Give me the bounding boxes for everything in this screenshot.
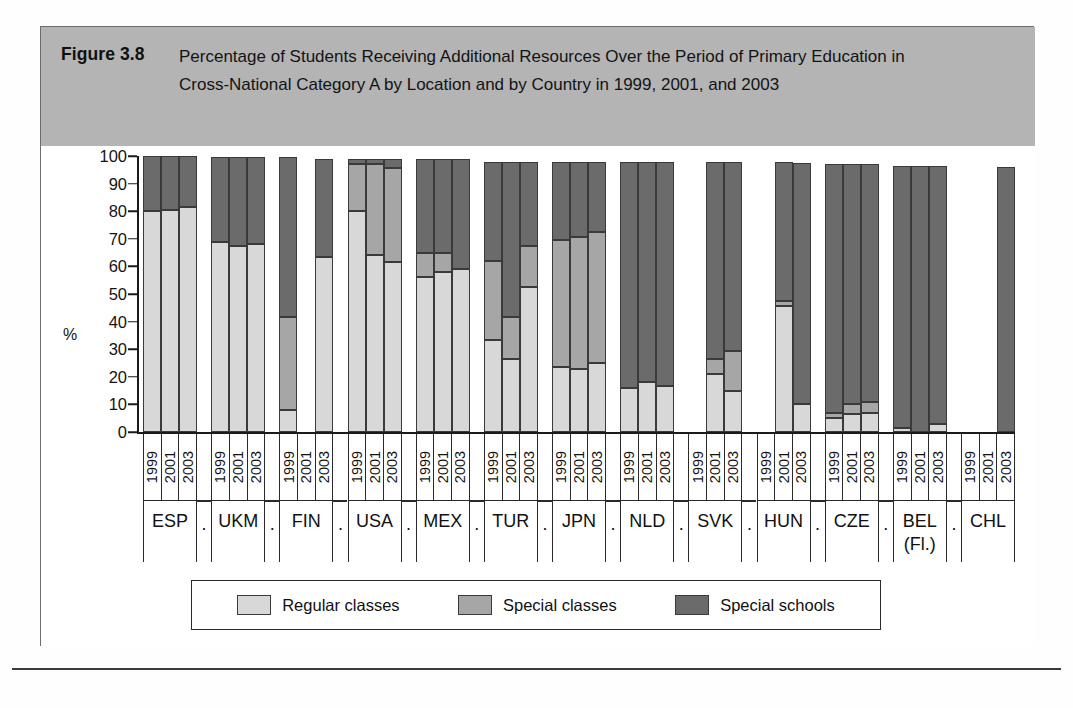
bar-belfl-2003[interactable] (929, 156, 947, 432)
year-label: 2003 (998, 451, 1014, 483)
bar-svk-2003[interactable] (724, 156, 742, 432)
figure-title-band: Figure 3.8 Percentage of Students Receiv… (41, 27, 1035, 146)
bar-usa-2003[interactable] (384, 156, 402, 432)
bar-segment-special-schools (825, 164, 843, 412)
bar-jpn-2003[interactable] (588, 156, 606, 432)
year-label: 1999 (553, 451, 569, 483)
bar-esp-2001[interactable] (161, 156, 179, 432)
bar-fin-1999[interactable] (279, 156, 297, 432)
country-label-row: HUN (758, 500, 810, 562)
year-label: 2001 (912, 451, 928, 483)
year-label: 2003 (452, 451, 468, 483)
year-cell-2003: 2003 (520, 434, 537, 500)
bar-ukm-1999[interactable] (211, 156, 229, 432)
bar-segment-special-classes (861, 402, 879, 413)
bar-hun-2003[interactable] (793, 156, 811, 432)
bar-belfl-1999[interactable] (893, 156, 911, 432)
country-label: CHL (970, 510, 1006, 533)
year-cell-2001: 2001 (366, 434, 384, 500)
bar-segment-regular (570, 369, 588, 432)
bar-cze-1999[interactable] (825, 156, 843, 432)
category-spacer: . (947, 434, 961, 562)
y-tick-mark-0 (128, 431, 137, 433)
year-cell-1999: 1999 (962, 434, 980, 500)
bar-fin-2003[interactable] (315, 156, 333, 432)
bar-nld-2001[interactable] (638, 156, 656, 432)
category-column-esp: 199920012003ESP (143, 434, 197, 562)
bar-segment-special-classes (520, 246, 538, 287)
country-label: JPN (562, 510, 596, 533)
bar-nld-2003[interactable] (656, 156, 674, 432)
bar-segment-special-schools (520, 162, 538, 246)
country-label: TUR (492, 510, 529, 533)
spacer-dot-label: . (815, 514, 820, 535)
y-tick-label-50: 50 (81, 285, 127, 304)
bar-tur-2001[interactable] (502, 156, 520, 432)
category-column-fin: 199920012003FIN (279, 434, 333, 562)
bar-segment-regular (452, 269, 470, 432)
y-tick-label-100: 100 (81, 147, 127, 166)
year-label: 1999 (962, 451, 978, 483)
bar-segment-special-schools (588, 162, 606, 232)
bar-segment-regular (656, 386, 674, 432)
y-tick-label-70: 70 (81, 229, 127, 248)
bar-esp-2003[interactable] (179, 156, 197, 432)
bar-nld-1999[interactable] (620, 156, 638, 432)
category-spacer: . (538, 434, 552, 562)
bar-cze-2001[interactable] (843, 156, 861, 432)
year-cell-2003: 2003 (588, 434, 605, 500)
bar-usa-2001[interactable] (366, 156, 384, 432)
bar-ukm-2001[interactable] (229, 156, 247, 432)
year-cell-2001: 2001 (775, 434, 793, 500)
bar-mex-1999[interactable] (416, 156, 434, 432)
year-cell-2001: 2001 (571, 434, 589, 500)
y-tick-mark-20 (128, 376, 137, 378)
bar-segment-regular (793, 404, 811, 432)
country-label: MEX (423, 510, 462, 533)
bar-cze-2003[interactable] (861, 156, 879, 432)
bar-segment-special-classes (775, 301, 793, 307)
bar-hun-2001[interactable] (775, 156, 793, 432)
year-label-row: 199920012003 (280, 434, 332, 500)
bar-svk-2001[interactable] (706, 156, 724, 432)
bar-chl-2003[interactable] (997, 156, 1015, 432)
year-cell-2003: 2003 (725, 434, 742, 500)
category-spacer: . (265, 434, 279, 562)
bar-segment-special-schools (929, 166, 947, 424)
bar-segment-special-schools (656, 162, 674, 387)
bar-segment-special-schools (366, 159, 384, 165)
country-label-sub: (Fl.) (904, 533, 936, 556)
bar-segment-special-classes (570, 237, 588, 368)
bar-mex-2003[interactable] (452, 156, 470, 432)
figure-number: Figure 3.8 (61, 43, 179, 65)
bar-usa-1999[interactable] (348, 156, 366, 432)
y-tick-label-20: 20 (81, 367, 127, 386)
bar-segment-regular (179, 207, 197, 432)
bar-belfl-2001[interactable] (911, 156, 929, 432)
bar-group-belfl (893, 156, 947, 432)
bar-jpn-2001[interactable] (570, 156, 588, 432)
bar-tur-1999[interactable] (484, 156, 502, 432)
year-cell-1999: 1999 (485, 434, 503, 500)
bar-ukm-2003[interactable] (247, 156, 265, 432)
bar-jpn-1999[interactable] (552, 156, 570, 432)
year-cell-2001: 2001 (162, 434, 180, 500)
plot-panel: % 0102030405060708090100 199920012003ESP… (41, 146, 1035, 646)
bar-segment-special-schools (861, 164, 879, 401)
year-label: 2003 (930, 451, 946, 483)
bar-tur-2003[interactable] (520, 156, 538, 432)
year-cell-2003: 2003 (316, 434, 333, 500)
category-spacer: . (742, 434, 756, 562)
bar-esp-1999[interactable] (143, 156, 161, 432)
country-label: FIN (292, 510, 321, 533)
bar-mex-2001[interactable] (434, 156, 452, 432)
y-tick-mark-70 (128, 238, 137, 240)
y-tick-label-80: 80 (81, 202, 127, 221)
bar-segment-special-schools (638, 162, 656, 383)
year-cell-1999: 1999 (212, 434, 230, 500)
bar-segment-special-schools (279, 157, 297, 317)
chart-legend: Regular classes Special classes Special … (191, 580, 881, 630)
y-tick-label-60: 60 (81, 257, 127, 276)
y-tick-mark-100 (128, 155, 137, 157)
year-cell-2001: 2001 (707, 434, 725, 500)
